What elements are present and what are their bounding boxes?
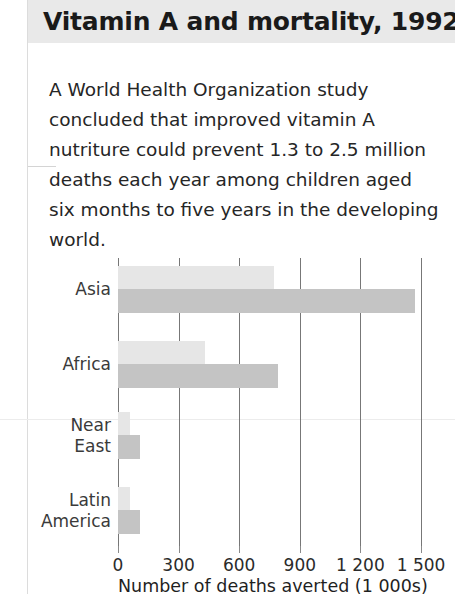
bar-high-africa [118,364,278,388]
x-axis-tick-label: 900 [284,555,316,575]
x-axis-title: Number of deaths averted (1 000s) [118,576,421,594]
x-axis-tick-label: 1 500 [397,555,446,575]
x-axis-tick-label: 1 200 [336,555,385,575]
bar-low-near-east [118,412,130,435]
x-axis-tick [239,546,240,553]
x-axis-tick [118,546,119,553]
x-axis-tick [421,546,422,553]
category-label-asia: Asia [25,279,111,300]
bar-low-latin-america [118,487,130,510]
x-axis-tick [300,546,301,553]
x-axis-tick-label: 0 [113,555,124,575]
bar-high-asia [118,289,415,313]
bar-high-latin-america [118,510,140,534]
category-label-latin-america: LatinAmerica [25,490,111,532]
x-axis-tick-label: 600 [223,555,255,575]
category-label-near-east: NearEast [25,415,111,457]
x-axis-tick [360,546,361,553]
bar-low-africa [118,341,205,364]
gridline [421,258,422,546]
x-axis-tick-label: 300 [162,555,194,575]
category-label-africa: Africa [25,354,111,375]
bar-chart: AsiaAfricaNearEastLatinAmerica Number of… [28,258,455,594]
bar-low-asia [118,266,274,289]
category-axis-labels: AsiaAfricaNearEastLatinAmerica [28,258,111,546]
x-axis-tick [179,546,180,553]
bar-high-near-east [118,435,140,459]
title-bar: Vitamin A and mortality, 1992 [28,0,455,43]
plot-area [118,258,421,546]
page-title: Vitamin A and mortality, 1992 [43,7,455,36]
article-paragraph: A World Health Organization study conclu… [49,75,439,255]
